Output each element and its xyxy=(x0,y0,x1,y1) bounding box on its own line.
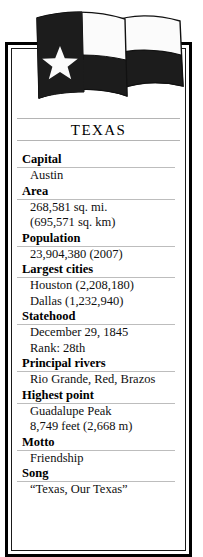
fact-value: Dallas (1,232,940) xyxy=(17,294,185,310)
fact-label: Largest cities xyxy=(17,262,175,278)
fact-value: 23,904,380 (2007) xyxy=(17,247,185,263)
fact-row: Statehood December 29, 1845 Rank: 28th xyxy=(17,309,185,356)
fact-row: Population 23,904,380 (2007) xyxy=(17,231,185,263)
fact-label: Motto xyxy=(17,435,175,451)
fact-label: Statehood xyxy=(17,309,175,325)
fact-row: Area 268,581 sq. mi. (695,571 sq. km) xyxy=(17,184,185,231)
fact-value: Rank: 28th xyxy=(17,341,185,357)
fact-value: December 29, 1845 xyxy=(17,325,185,341)
title-rule-bottom xyxy=(17,140,180,141)
texas-state-flag xyxy=(37,12,127,98)
fact-row: Motto Friendship xyxy=(17,435,185,467)
fact-value: Friendship xyxy=(17,451,185,467)
fact-value: (695,571 sq. km) xyxy=(17,215,185,231)
fact-label: Capital xyxy=(17,152,175,168)
fact-value: Houston (2,208,180) xyxy=(17,278,185,294)
fact-row: Capital Austin xyxy=(17,152,185,184)
fact-value: 268,581 sq. mi. xyxy=(17,200,185,216)
fact-label: Principal rivers xyxy=(17,356,175,372)
fact-value: Rio Grande, Red, Brazos xyxy=(17,372,185,388)
flags-illustration xyxy=(30,8,195,116)
fact-row: Highest point Guadalupe Peak 8,749 feet … xyxy=(17,388,185,435)
fact-list: Capital Austin Area 268,581 sq. mi. (695… xyxy=(17,152,185,498)
fact-label: Song xyxy=(17,466,175,482)
title-block: TEXAS xyxy=(17,118,180,141)
page-title: TEXAS xyxy=(17,119,180,140)
fact-value: “Texas, Our Texas” xyxy=(17,482,185,498)
fact-value: 8,749 feet (2,668 m) xyxy=(17,419,185,435)
fact-value: Guadalupe Peak xyxy=(17,404,185,420)
fact-row: Song “Texas, Our Texas” xyxy=(17,466,185,498)
fact-label: Population xyxy=(17,231,175,247)
fact-row: Principal rivers Rio Grande, Red, Brazos xyxy=(17,356,185,388)
fact-label: Area xyxy=(17,184,175,200)
fact-value: Austin xyxy=(17,168,185,184)
fact-row: Largest cities Houston (2,208,180) Dalla… xyxy=(17,262,185,309)
fact-label: Highest point xyxy=(17,388,175,404)
